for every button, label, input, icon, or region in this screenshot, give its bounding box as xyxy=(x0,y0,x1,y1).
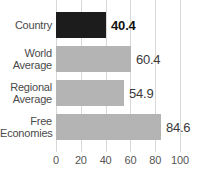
category-label-world-average: World Average xyxy=(0,47,52,71)
category-label-regional-average: Regional Average xyxy=(0,81,52,105)
bar-country xyxy=(56,12,106,38)
bar-rows: 40.4 60.4 54.9 84.6 xyxy=(56,8,180,144)
category-label-line: World xyxy=(0,47,52,59)
category-label-line: Economies xyxy=(0,127,52,139)
x-tick-label: 100 xyxy=(171,154,189,166)
bar-value-regional-average: 54.9 xyxy=(129,86,154,101)
bar-world-average xyxy=(56,46,131,72)
x-axis: 020406080100 xyxy=(56,152,180,174)
bar-row-country: 40.4 xyxy=(56,12,180,38)
category-label-country: Country xyxy=(0,19,52,31)
bar-value-country: 40.4 xyxy=(111,18,136,33)
x-tick-label: 40 xyxy=(100,154,112,166)
bar-row-regional-average: 54.9 xyxy=(56,80,180,106)
bar-row-free-economies: 84.6 xyxy=(56,114,180,140)
category-label-line: Free xyxy=(0,115,52,127)
bar-free-economies xyxy=(56,114,161,140)
category-label-line: Country xyxy=(0,19,52,31)
x-tick-label: 80 xyxy=(149,154,161,166)
plot-area: 40.4 60.4 54.9 84.6 xyxy=(56,0,180,152)
category-label-line: Average xyxy=(0,93,52,105)
x-tick-label: 60 xyxy=(124,154,136,166)
category-label-line: Average xyxy=(0,59,52,71)
x-tick-label: 0 xyxy=(53,154,59,166)
bar-row-world-average: 60.4 xyxy=(56,46,180,72)
bar-chart: Country World Average Regional Average F… xyxy=(0,0,200,177)
x-tick-label: 20 xyxy=(75,154,87,166)
bar-value-free-economies: 84.6 xyxy=(166,120,191,135)
bar-value-world-average: 60.4 xyxy=(136,52,161,67)
category-label-line: Regional xyxy=(0,81,52,93)
bar-regional-average xyxy=(56,80,124,106)
category-label-free-economies: Free Economies xyxy=(0,115,52,139)
category-axis: Country World Average Regional Average F… xyxy=(0,8,52,144)
